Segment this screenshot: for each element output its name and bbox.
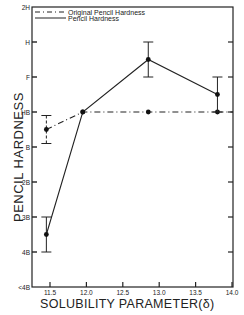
x-tick-label: 12.0: [80, 289, 93, 296]
y-tick-label: <4B: [18, 284, 30, 291]
chart-svg: 2HHFHBB2B3B4B<4B 11.512.012.513.013.514.…: [0, 0, 244, 315]
x-tick-label: 13.0: [153, 289, 166, 296]
data-point: [80, 110, 85, 115]
data-point: [215, 92, 220, 97]
y-tick-label: H: [25, 39, 30, 46]
data-point: [146, 57, 151, 62]
y-axis-label: PENCIL HARDNESS: [11, 92, 26, 222]
data-point: [44, 232, 49, 237]
x-tick-label: 11.5: [44, 289, 57, 296]
y-tick-label: F: [26, 74, 30, 81]
y-tick-label: B: [26, 144, 30, 151]
series-line: [46, 112, 217, 130]
x-axis: 11.512.012.513.013.514.0: [44, 282, 239, 296]
data-point: [44, 127, 49, 132]
plot-frame: [32, 7, 233, 287]
legend-label-pencil: Pencil Hardness: [68, 15, 119, 22]
x-tick-label: 14.0: [226, 289, 239, 296]
x-axis-label: SOLUBILITY PARAMETER(δ): [40, 297, 215, 311]
y-tick-label: 2H: [22, 4, 31, 11]
data-point: [146, 110, 151, 115]
y-tick-label: 4B: [22, 249, 30, 256]
legend: Original Pencil Hardness Pencil Hardness: [35, 9, 146, 22]
chart: 2HHFHBB2B3B4B<4B 11.512.012.513.013.514.…: [0, 0, 244, 315]
y-axis: 2HHFHBB2B3B4B<4B: [18, 4, 233, 291]
x-tick-label: 13.5: [189, 289, 202, 296]
series-group: [41, 42, 233, 252]
x-tick-label: 12.5: [116, 289, 129, 296]
series-line: [46, 60, 217, 235]
